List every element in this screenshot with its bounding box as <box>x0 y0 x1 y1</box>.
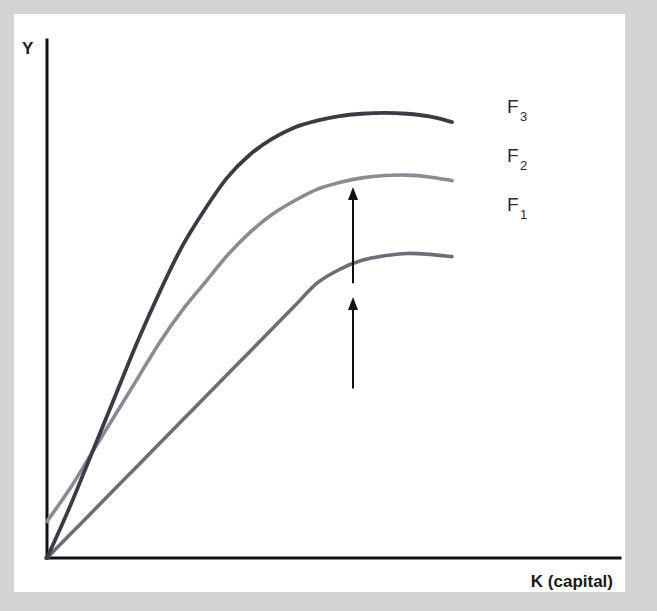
curve-label-f1-subscript: 1 <box>520 207 527 222</box>
y-axis-label: Y <box>22 39 34 58</box>
shift-arrow-f1-to-f2-head <box>348 297 358 310</box>
production-function-chart: Y K (capital) F 3 F 2 F 1 <box>0 0 657 611</box>
figure-root: Y K (capital) F 3 F 2 F 1 <box>0 0 657 611</box>
curve-label-f2: F 2 <box>507 145 527 173</box>
shift-arrow-f2-to-f3-head <box>348 187 358 200</box>
curve-label-f3: F 3 <box>507 96 527 124</box>
curve-label-f2-subscript: 2 <box>520 158 527 173</box>
curve-f1 <box>47 253 452 558</box>
shift-arrow-f2-to-f3 <box>348 187 358 283</box>
curve-label-f2-letter: F <box>507 145 519 166</box>
shift-arrow-f1-to-f2 <box>348 297 358 389</box>
curve-f3 <box>47 113 452 558</box>
curve-label-f3-letter: F <box>507 96 519 117</box>
curve-label-f1: F 1 <box>507 194 527 222</box>
curve-label-f1-letter: F <box>507 194 519 215</box>
x-axis-label: K (capital) <box>531 572 613 591</box>
curve-label-f3-subscript: 3 <box>520 109 527 124</box>
curve-f2 <box>47 175 452 521</box>
